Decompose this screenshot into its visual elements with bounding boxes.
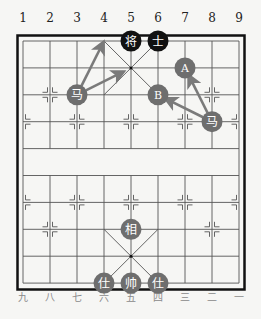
marker-corner <box>188 114 193 119</box>
piece-red[interactable]: 帅 <box>121 273 142 294</box>
marker-corner <box>43 222 48 227</box>
file-label-bottom: 三 <box>180 292 190 303</box>
file-label-bottom: 四 <box>153 292 163 303</box>
marker-corner <box>232 205 237 210</box>
marker-corner <box>134 205 139 210</box>
file-label-bottom: 八 <box>45 292 55 303</box>
marker-corner <box>80 114 85 119</box>
marker-corner <box>124 195 129 200</box>
piece-red[interactable]: 马 <box>202 111 223 132</box>
file-label-bottom: 一 <box>234 292 244 303</box>
marker-corner <box>53 97 58 102</box>
marker-corner <box>178 124 183 129</box>
marker-corner <box>70 114 75 119</box>
marker-corner <box>215 222 220 227</box>
file-label-top: 3 <box>73 11 81 25</box>
marker-corner <box>215 232 220 237</box>
piece-glyph: 仕 <box>98 277 110 291</box>
marker-corner <box>124 114 129 119</box>
marker-corner <box>188 124 193 129</box>
file-label-bottom: 二 <box>207 292 217 303</box>
marker-corner <box>53 232 58 237</box>
piece-red[interactable]: 仕 <box>148 273 169 294</box>
piece-glyph: 马 <box>71 88 83 102</box>
marker-corner <box>80 205 85 210</box>
marker-corner <box>124 124 129 129</box>
marker-corner <box>232 124 237 129</box>
piece-red[interactable]: 马 <box>67 84 88 105</box>
marker-corner <box>205 97 210 102</box>
marker-corner <box>188 205 193 210</box>
file-label-top: 2 <box>46 11 54 25</box>
piece-black[interactable]: 士 <box>148 31 169 52</box>
marker-corner <box>215 97 220 102</box>
marker-corner <box>70 205 75 210</box>
piece-glyph: 马 <box>206 115 218 129</box>
piece-glyph: B <box>154 89 162 102</box>
marker-corner <box>215 87 220 92</box>
file-label-bottom: 六 <box>99 292 109 303</box>
marker-corner <box>43 97 48 102</box>
marker-corner <box>80 195 85 200</box>
marker-corner <box>178 205 183 210</box>
marker-corner <box>80 124 85 129</box>
marker-corner <box>232 114 237 119</box>
piece-black[interactable]: 将 <box>121 31 142 52</box>
file-label-bottom: 五 <box>126 292 136 303</box>
file-label-top: 5 <box>127 11 135 25</box>
xiangqi-board: 123456789九八七六五四三二一将士马AB马相仕帅仕 <box>0 0 261 319</box>
marker-corner <box>53 87 58 92</box>
file-label-top: 7 <box>181 11 189 25</box>
marker-corner <box>178 114 183 119</box>
marker-corner <box>232 195 237 200</box>
marker-corner <box>205 87 210 92</box>
marker-corner <box>26 195 31 200</box>
marker-corner <box>43 87 48 92</box>
marker-corner <box>205 232 210 237</box>
marker-corner <box>53 222 58 227</box>
marker-corner <box>26 124 31 129</box>
marker-corner <box>70 195 75 200</box>
palace-center-dot <box>130 66 133 69</box>
piece-glyph: 仕 <box>152 277 164 291</box>
move-arrow <box>81 43 103 86</box>
palace-center-dot <box>130 255 133 258</box>
file-label-top: 4 <box>100 11 108 25</box>
file-label-top: 1 <box>19 11 27 25</box>
file-label-bottom: 九 <box>18 292 28 303</box>
piece-glyph: 将 <box>125 35 137 49</box>
file-label-bottom: 七 <box>72 292 82 303</box>
grid-lines <box>23 41 239 283</box>
file-label-top: 6 <box>154 11 162 25</box>
piece-glyph: 帅 <box>125 277 137 291</box>
piece-marker-b[interactable]: B <box>148 84 169 105</box>
file-label-top: 9 <box>235 11 243 25</box>
marker-corner <box>188 195 193 200</box>
marker-corner <box>134 114 139 119</box>
piece-marker-a[interactable]: A <box>175 57 196 78</box>
marker-corner <box>43 232 48 237</box>
piece-red[interactable]: 相 <box>121 219 142 240</box>
piece-glyph: 士 <box>152 35 164 49</box>
marker-corner <box>205 222 210 227</box>
marker-corner <box>178 195 183 200</box>
marker-corner <box>26 205 31 210</box>
piece-glyph: A <box>180 62 190 75</box>
piece-glyph: 相 <box>125 223 137 237</box>
marker-corner <box>134 195 139 200</box>
marker-corner <box>134 124 139 129</box>
marker-corner <box>70 124 75 129</box>
marker-corner <box>26 114 31 119</box>
piece-red[interactable]: 仕 <box>94 273 115 294</box>
marker-corner <box>124 205 129 210</box>
file-label-top: 8 <box>208 11 216 25</box>
